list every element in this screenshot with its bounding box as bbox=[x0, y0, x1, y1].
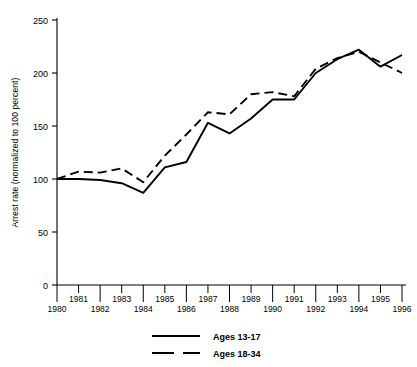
x-tick-label: 1984 bbox=[134, 304, 153, 314]
y-tick-label: 150 bbox=[33, 122, 48, 132]
x-tick-label: 1985 bbox=[155, 294, 174, 304]
y-tick-label: 250 bbox=[33, 16, 48, 26]
x-tick-label: 1990 bbox=[263, 304, 282, 314]
x-tick-label: 1987 bbox=[198, 294, 217, 304]
y-tick-label: 100 bbox=[33, 175, 48, 185]
series-line-ages-18-34 bbox=[57, 52, 402, 182]
y-tick-label: 200 bbox=[33, 69, 48, 79]
x-tick-label: 1981 bbox=[69, 294, 88, 304]
x-tick-label: 1983 bbox=[112, 294, 131, 304]
series-line-ages-13-17 bbox=[57, 50, 402, 193]
chart-canvas: 050100150200250Arrest rate (normalized t… bbox=[0, 0, 417, 367]
x-tick-label: 1996 bbox=[393, 304, 412, 314]
y-tick-label: 0 bbox=[43, 281, 48, 291]
y-axis-title: Arrest rate (normalized to 100 percent) bbox=[10, 77, 20, 227]
x-tick-label: 1989 bbox=[242, 294, 261, 304]
legend-label-2: Ages 18-34 bbox=[213, 349, 261, 359]
y-tick-label: 50 bbox=[38, 228, 48, 238]
legend-label-1: Ages 13-17 bbox=[213, 332, 261, 342]
x-tick-label: 1988 bbox=[220, 304, 239, 314]
x-tick-label: 1986 bbox=[177, 304, 196, 314]
x-tick-label: 1992 bbox=[306, 304, 325, 314]
x-tick-label: 1980 bbox=[48, 304, 67, 314]
x-tick-label: 1991 bbox=[285, 294, 304, 304]
x-tick-label: 1993 bbox=[328, 294, 347, 304]
x-tick-label: 1994 bbox=[349, 304, 368, 314]
x-tick-label: 1982 bbox=[91, 304, 110, 314]
x-tick-label: 1995 bbox=[371, 294, 390, 304]
arrest-rate-chart: 050100150200250Arrest rate (normalized t… bbox=[0, 0, 417, 367]
